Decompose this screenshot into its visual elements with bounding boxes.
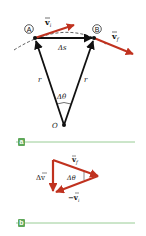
point-a-label: A: [27, 26, 32, 33]
panel-b-badge: b: [18, 219, 25, 227]
point-b-dot: [92, 36, 96, 40]
neg-v-initial-arrow: [56, 176, 98, 192]
point-a-dot: [33, 36, 37, 40]
delta-v-label: Δv: [36, 174, 45, 182]
v-initial-label: vi: [44, 17, 52, 28]
delta-theta-label-b: Δθ: [66, 174, 76, 182]
v-final-label-b: vf: [71, 155, 79, 165]
origin-label: O: [52, 122, 58, 130]
radius-right-arrow: [64, 41, 93, 125]
panel-a: A B vi vf Δs r r Δθ O: [14, 17, 133, 130]
panel-a-badge: a: [18, 138, 25, 146]
v-final-label: vf: [111, 31, 120, 43]
panel-b: vf Δv Δθ −vi: [36, 155, 98, 203]
origin-dot: [62, 123, 66, 127]
v-initial-arrow: [35, 25, 74, 38]
radius-right-label: r: [84, 76, 88, 84]
neg-v-initial-label: −vi: [68, 193, 80, 203]
radius-left-label: r: [38, 76, 42, 84]
circular-motion-diagram: A B vi vf Δs r r Δθ O vf Δv Δθ −vi: [0, 0, 146, 236]
delta-theta-arc: [57, 103, 71, 105]
delta-s-label: Δs: [57, 44, 67, 52]
point-b-label: B: [95, 26, 100, 33]
delta-theta-label: Δθ: [56, 93, 67, 101]
